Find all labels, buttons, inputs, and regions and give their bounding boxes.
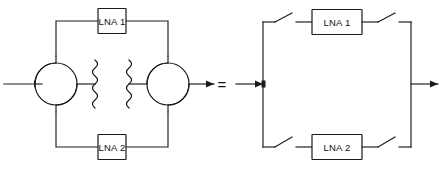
left-amplifier-lna2: LNA 2 <box>98 135 126 160</box>
diagram-canvas: LNA 1 LNA 2 = <box>0 0 443 169</box>
right-amplifier-lna1: LNA 1 <box>312 10 362 35</box>
input-hybrid-coupler <box>35 56 95 112</box>
right-amplifier-lna2: LNA 2 <box>312 135 362 160</box>
switch-bottom-left[interactable] <box>263 137 312 147</box>
left-amplifier-lna1-label: LNA 1 <box>99 16 126 27</box>
circuit-diagram: LNA 1 LNA 2 = <box>0 0 443 169</box>
left-circuit-group: LNA 1 LNA 2 <box>4 9 214 160</box>
switch-top-left[interactable] <box>263 13 312 22</box>
left-output-port <box>189 81 214 88</box>
equivalence-symbol: = <box>218 76 227 93</box>
equals-sign-label: = <box>218 76 227 93</box>
output-hybrid-coupler <box>129 56 189 112</box>
left-amplifier-lna1: LNA 1 <box>98 9 126 34</box>
right-input-port <box>236 81 266 88</box>
right-amplifier-lna1-label: LNA 1 <box>324 17 351 28</box>
switch-bottom-right[interactable] <box>362 137 411 147</box>
left-amplifier-lna2-label: LNA 2 <box>99 142 126 153</box>
right-output-port <box>411 81 438 88</box>
right-amplifier-lna2-label: LNA 2 <box>324 142 351 153</box>
switch-top-right[interactable] <box>362 13 411 22</box>
right-circuit-group: LNA 1 LNA 2 <box>236 10 438 160</box>
